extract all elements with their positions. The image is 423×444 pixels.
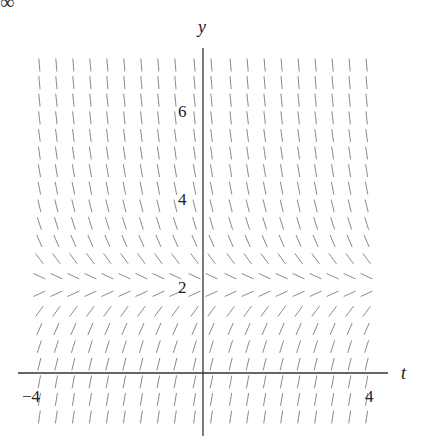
slope-segment: [280, 375, 283, 388]
slope-segment: [245, 323, 250, 335]
slope-segment: [261, 253, 269, 263]
slope-segment: [297, 217, 301, 229]
slope-segment: [314, 182, 317, 195]
slope-segment: [124, 94, 125, 107]
slope-segment: [141, 76, 142, 89]
slope-segment: [281, 164, 283, 177]
slope-segment: [71, 323, 76, 335]
slope-segment: [349, 76, 350, 89]
slope-segment: [259, 274, 271, 279]
slope-segment: [330, 235, 335, 247]
slope-segment: [363, 306, 371, 316]
slope-segment: [173, 235, 178, 247]
slope-segment: [88, 340, 92, 352]
slope-segment: [246, 340, 250, 352]
slope-segment: [107, 129, 109, 142]
slope-segment: [264, 393, 266, 406]
slope-segment: [55, 358, 58, 371]
slope-segment: [102, 274, 114, 279]
slope-segment: [140, 375, 143, 388]
slope-segment: [349, 164, 351, 177]
slope-segment: [155, 306, 163, 316]
slope-segment: [192, 235, 197, 247]
slope-segment: [280, 358, 283, 371]
slope-segment: [173, 217, 177, 229]
slope-segment: [106, 375, 109, 388]
slope-segment: [230, 147, 232, 160]
slope-segment: [298, 411, 300, 424]
slope-segment: [194, 94, 195, 107]
slope-segment: [107, 111, 109, 124]
slope-segment: [229, 375, 232, 388]
slope-segment: [225, 291, 237, 296]
slope-segment: [210, 200, 213, 213]
slope-segment: [262, 323, 267, 335]
slope-segment: [293, 291, 305, 296]
slope-segment: [230, 111, 232, 124]
slope-segment: [193, 393, 195, 406]
slope-segment: [139, 235, 144, 247]
slope-segment: [193, 358, 196, 371]
slope-segment: [122, 217, 126, 229]
slope-segment: [332, 59, 333, 72]
slope-segment: [136, 291, 148, 296]
slope-segment: [297, 200, 300, 213]
slope-segment: [247, 411, 249, 424]
slope-segment: [259, 291, 271, 296]
slope-segment: [72, 200, 75, 213]
slope-segment: [331, 217, 335, 229]
slope-segment: [157, 411, 159, 424]
slope-segment: [228, 323, 233, 335]
slope-segment: [72, 182, 75, 195]
slope-segment: [211, 129, 213, 142]
slope-segment: [54, 340, 58, 352]
slope-segment: [280, 182, 283, 195]
slope-segment: [124, 111, 126, 124]
slope-segment: [53, 253, 61, 263]
slope-segment: [346, 253, 354, 263]
slope-segment: [363, 253, 371, 263]
slope-segment: [173, 340, 177, 352]
slope-segment: [210, 358, 213, 371]
slope-segment: [347, 235, 352, 247]
slope-segment: [315, 59, 316, 72]
slope-segment: [158, 59, 159, 72]
slope-segment: [313, 235, 318, 247]
slope-segment: [175, 111, 177, 124]
slope-segment: [36, 253, 44, 263]
slope-segment: [366, 164, 368, 177]
slope-segment: [312, 253, 320, 263]
slope-segment: [68, 274, 80, 279]
slope-segment: [156, 323, 161, 335]
slope-segment: [174, 358, 177, 371]
slope-segment: [210, 217, 214, 229]
slope-segment: [39, 129, 41, 142]
slope-segment: [193, 340, 197, 352]
slope-segment: [157, 375, 160, 388]
slope-segment: [38, 200, 41, 213]
slope-segment: [344, 274, 356, 279]
slope-segment: [276, 274, 288, 279]
slope-segment: [175, 76, 176, 89]
slope-segment: [295, 306, 303, 316]
slope-segment: [174, 147, 176, 160]
slope-segment: [90, 59, 91, 72]
slope-segment: [85, 274, 97, 279]
slope-segment: [349, 59, 350, 72]
slope-segment: [174, 200, 177, 213]
slope-segment: [206, 274, 218, 279]
slope-segment: [281, 411, 283, 424]
slope-segment: [106, 147, 108, 160]
slope-segment: [102, 291, 114, 296]
slope-segment: [174, 393, 176, 406]
slope-segment: [246, 217, 250, 229]
slope-segment: [89, 164, 91, 177]
slope-segment: [246, 358, 249, 371]
slope-segment: [189, 291, 201, 296]
slope-segment: [246, 375, 249, 388]
slope-segment: [327, 291, 339, 296]
slope-segment: [331, 375, 334, 388]
slope-segment: [263, 182, 266, 195]
slope-segment: [331, 200, 334, 213]
slope-segment: [157, 200, 160, 213]
